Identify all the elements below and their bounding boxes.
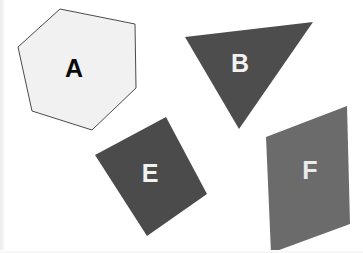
shape-group-f[interactable]: F	[266, 106, 350, 253]
left-edge-tint	[0, 0, 5, 253]
shape-label-e: E	[142, 159, 159, 187]
shape-group-e[interactable]: E	[95, 117, 207, 236]
shape-group-a[interactable]: A	[18, 9, 136, 130]
shapes-svg: A B E F	[0, 0, 363, 253]
shape-label-f: F	[302, 156, 317, 184]
shape-canvas: A B E F	[0, 0, 363, 253]
shape-label-b: B	[231, 49, 249, 77]
shape-group-b[interactable]: B	[185, 22, 313, 129]
shape-label-a: A	[65, 54, 83, 82]
